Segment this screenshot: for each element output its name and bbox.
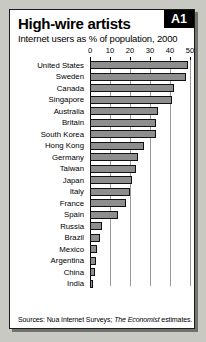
category-label: Italy bbox=[10, 187, 84, 197]
bar bbox=[90, 222, 102, 230]
bar bbox=[90, 245, 97, 253]
bar bbox=[90, 280, 93, 288]
category-label: France bbox=[10, 199, 84, 209]
chart-bar-row: Canada bbox=[10, 83, 194, 95]
panel-badge: A1 bbox=[164, 10, 194, 28]
sources-suffix: estimates. bbox=[160, 316, 193, 323]
category-label: United States bbox=[10, 61, 84, 71]
x-tick-label: 30 bbox=[146, 46, 154, 55]
chart-bar-row: Hong Kong bbox=[10, 141, 194, 153]
chart-bar-row: Australia bbox=[10, 106, 194, 118]
x-axis-tick-labels: 01020304050 bbox=[10, 46, 194, 57]
bar bbox=[90, 61, 188, 69]
x-tick-label: 10 bbox=[106, 46, 114, 55]
bar bbox=[90, 211, 118, 219]
category-label: Hong Kong bbox=[10, 141, 84, 151]
bar bbox=[90, 107, 158, 115]
bar bbox=[90, 153, 138, 161]
category-label: Australia bbox=[10, 107, 84, 117]
chart-bar-row: South Korea bbox=[10, 129, 194, 141]
sources-prefix: Sources: Nua Internet Surveys; bbox=[18, 316, 114, 323]
chart-bar-row: Mexico bbox=[10, 244, 194, 256]
category-label: India bbox=[10, 279, 84, 289]
chart-bar-row: China bbox=[10, 267, 194, 279]
chart-bars: United StatesSwedenCanadaSingaporeAustra… bbox=[10, 60, 194, 294]
bar bbox=[90, 257, 96, 265]
bar bbox=[90, 142, 144, 150]
category-label: Germany bbox=[10, 153, 84, 163]
chart-bar-row: Russia bbox=[10, 221, 194, 233]
x-tick-label: 0 bbox=[88, 46, 92, 55]
sources-note: Sources: Nua Internet Surveys; The Econo… bbox=[18, 316, 188, 323]
category-label: Brazil bbox=[10, 233, 84, 243]
chart-bar-row: Japan bbox=[10, 175, 194, 187]
bar bbox=[90, 96, 172, 104]
category-label: China bbox=[10, 268, 84, 278]
category-label: Canada bbox=[10, 84, 84, 94]
chart-bar-row: India bbox=[10, 279, 194, 291]
category-label: South Korea bbox=[10, 130, 84, 140]
bar bbox=[90, 199, 126, 207]
bar bbox=[90, 268, 95, 276]
chart-bar-row: Spain bbox=[10, 210, 194, 222]
chart-bar-row: Germany bbox=[10, 152, 194, 164]
x-tick-label: 50 bbox=[186, 46, 194, 55]
bar bbox=[90, 234, 100, 242]
chart-bar-row: United States bbox=[10, 60, 194, 72]
bar bbox=[90, 119, 156, 127]
x-tick-label: 40 bbox=[166, 46, 174, 55]
x-tick-label: 20 bbox=[126, 46, 134, 55]
chart-bar-row: France bbox=[10, 198, 194, 210]
chart-bar-row: Argentina bbox=[10, 256, 194, 268]
chart-header: High-wire artists Internet users as % of… bbox=[10, 10, 194, 46]
sources-publication: The Economist bbox=[114, 316, 159, 323]
category-label: Russia bbox=[10, 222, 84, 232]
category-label: Britain bbox=[10, 118, 84, 128]
chart-plot-area: 01020304050 United StatesSwedenCanadaSin… bbox=[10, 46, 194, 294]
chart-bar-row: Taiwan bbox=[10, 164, 194, 176]
category-label: Spain bbox=[10, 210, 84, 220]
bar bbox=[90, 84, 174, 92]
bar bbox=[90, 73, 186, 81]
chart-subtitle: Internet users as % of population, 2000 bbox=[18, 33, 188, 45]
category-label: Singapore bbox=[10, 95, 84, 105]
page-title: High-wire artists bbox=[18, 16, 188, 32]
bar bbox=[90, 188, 130, 196]
chart-bar-row: Brazil bbox=[10, 233, 194, 245]
chart-footer: Sources: Nua Internet Surveys; The Econo… bbox=[10, 316, 194, 328]
category-label: Argentina bbox=[10, 256, 84, 266]
category-label: Mexico bbox=[10, 245, 84, 255]
chart-bar-row: Sweden bbox=[10, 72, 194, 84]
chart-bar-row: Britain bbox=[10, 118, 194, 130]
bar bbox=[90, 130, 156, 138]
bar bbox=[90, 165, 136, 173]
category-label: Sweden bbox=[10, 72, 84, 82]
category-label: Japan bbox=[10, 176, 84, 186]
chart-bar-row: Singapore bbox=[10, 95, 194, 107]
category-label: Taiwan bbox=[10, 164, 84, 174]
chart-figure: High-wire artists Internet users as % of… bbox=[9, 9, 195, 329]
chart-bar-row: Italy bbox=[10, 187, 194, 199]
bar bbox=[90, 176, 132, 184]
